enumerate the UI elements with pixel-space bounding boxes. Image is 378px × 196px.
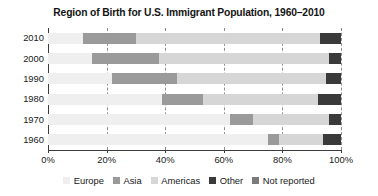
y-axis-label-1980: 1980 [4, 93, 44, 104]
bar-segment [323, 134, 341, 145]
x-axis-label-0: 0% [26, 154, 70, 165]
legend-swatch-icon [252, 177, 259, 184]
legend-label: Americas [161, 176, 200, 185]
bar-segment [268, 134, 280, 145]
x-axis-label-80: 80% [260, 154, 304, 165]
x-axis-label-20: 20% [85, 154, 129, 165]
legend-item-americas[interactable]: Americas [151, 176, 201, 185]
legend-item-other[interactable]: Other [209, 176, 243, 185]
chart-container: Region of Birth for U.S. Immigrant Popul… [0, 0, 378, 196]
legend-item-asia[interactable]: Asia [113, 176, 142, 185]
x-axis-label-60: 60% [202, 154, 246, 165]
bar-row [48, 73, 341, 84]
x-tick-mark-0 [48, 150, 49, 153]
bar-segment [48, 94, 162, 105]
legend-label: Other [220, 176, 243, 185]
bar-segment [162, 94, 203, 105]
bar-segment [318, 94, 341, 105]
gridline-40 [165, 28, 166, 150]
y-axis-label-2010: 2010 [4, 32, 44, 43]
bar-segment [92, 53, 159, 64]
legend-swatch-icon [113, 177, 120, 184]
bar-row [48, 134, 341, 145]
bar-segment [48, 53, 92, 64]
y-axis-label-2000: 2000 [4, 53, 44, 64]
x-tick-mark-60 [224, 150, 225, 153]
bar-segment [136, 33, 321, 44]
y-axis-label-1970: 1970 [4, 114, 44, 125]
bar-row [48, 114, 341, 125]
gridline-0 [48, 28, 49, 150]
legend-label: Not reported [263, 176, 315, 185]
legend-label: Asia [123, 176, 141, 185]
gridline-100 [341, 28, 342, 150]
bar-segment [230, 114, 253, 125]
bar-segment [159, 53, 329, 64]
bar-row [48, 94, 341, 105]
bar-segment [112, 73, 176, 84]
bar-segment [279, 134, 323, 145]
bar-segment [48, 33, 83, 44]
gridline-60 [224, 28, 225, 150]
bar-segment [329, 114, 341, 125]
chart-title: Region of Birth for U.S. Immigrant Popul… [0, 7, 378, 18]
bar-segment [253, 114, 329, 125]
bar-segment [83, 33, 136, 44]
plot-area [48, 28, 341, 150]
x-tick-mark-20 [107, 150, 108, 153]
bar-segment [329, 53, 341, 64]
legend-item-europe[interactable]: Europe [63, 176, 104, 185]
legend-item-not-reported[interactable]: Not reported [252, 176, 315, 185]
legend-label: Europe [74, 176, 104, 185]
gridline-20 [107, 28, 108, 150]
bar-segment [48, 114, 230, 125]
bar-row [48, 33, 341, 44]
legend-swatch-icon [63, 177, 70, 184]
legend-swatch-icon [209, 177, 216, 184]
x-axis-label-100: 100% [319, 154, 363, 165]
chart-legend: EuropeAsiaAmericasOtherNot reported [0, 176, 378, 185]
x-axis-label-40: 40% [143, 154, 187, 165]
y-axis-label-1990: 1990 [4, 73, 44, 84]
x-tick-mark-100 [341, 150, 342, 153]
bar-segment [326, 73, 341, 84]
bar-segment [48, 73, 112, 84]
x-axis-line [48, 150, 341, 151]
bar-row [48, 53, 341, 64]
bar-segment [203, 94, 317, 105]
x-tick-mark-40 [165, 150, 166, 153]
y-axis-label-1960: 1960 [4, 134, 44, 145]
x-tick-mark-80 [282, 150, 283, 153]
bar-segment [320, 33, 341, 44]
legend-swatch-icon [151, 177, 158, 184]
bar-segment [48, 134, 268, 145]
bar-segment [177, 73, 326, 84]
gridline-80 [282, 28, 283, 150]
